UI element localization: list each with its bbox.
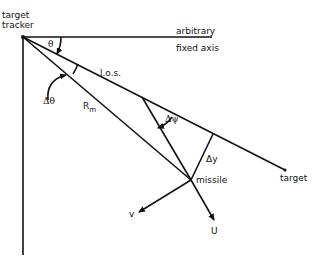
rm-line	[23, 37, 191, 180]
delta-theta-arc	[73, 64, 78, 74]
axis-label-line2: fixed axis	[176, 43, 219, 53]
target-point	[283, 168, 286, 171]
theta-label: θ	[48, 39, 53, 49]
tracker-label-line1: target	[2, 10, 29, 20]
line-of-sight	[23, 37, 285, 170]
rm-label: Rm	[83, 101, 96, 115]
los-label: l.o.s.	[100, 68, 121, 78]
u-vector	[191, 180, 214, 220]
target-label: target	[280, 173, 307, 183]
delta-theta-label: Δθ	[43, 96, 55, 106]
axis-label-line1: arbitrary	[176, 26, 215, 36]
delta-psi-label: Δψ	[165, 114, 179, 124]
theta-arc	[57, 37, 61, 54]
v-label: v	[129, 209, 134, 219]
tracker-point	[21, 35, 25, 39]
u-label: U	[211, 226, 218, 236]
delta-y-label: Δy	[206, 154, 217, 164]
tracker-label-line2: tracker	[2, 20, 34, 30]
missile-label: missile	[196, 175, 227, 185]
v-vector	[139, 180, 191, 212]
